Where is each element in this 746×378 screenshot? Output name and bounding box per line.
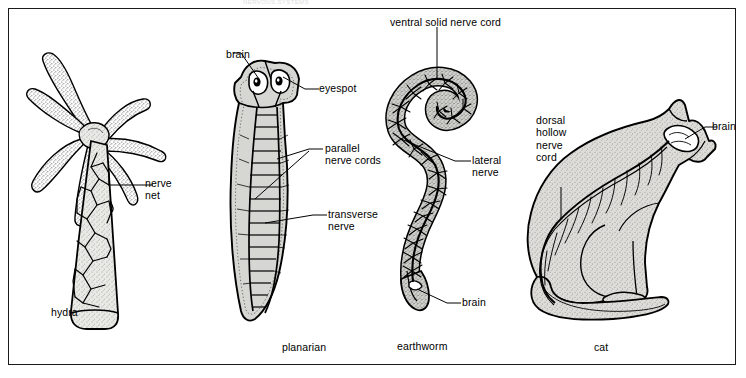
callout-cat-brain: brain [712, 120, 736, 132]
panel-hydra: nerve net hydra [21, 41, 206, 321]
organism-caption-planarian: planarian [282, 341, 326, 353]
callout-ventral-solid-nerve-cord: ventral solid nerve cord [390, 16, 501, 28]
earthworm-anterior [401, 271, 429, 310]
callout-lateral-nerve: lateral nerve [472, 154, 501, 179]
running-header: NERVOUS SYSTEMS [243, 0, 423, 6]
hydra-illustration [21, 41, 206, 321]
plate-frame: nerve net hydra [8, 8, 736, 365]
organism-caption-cat: cat [594, 341, 608, 353]
callout-planarian-eyespot: eyespot [319, 82, 356, 94]
callout-nerve-net: nerve net [145, 177, 172, 202]
nervous-system-figure: NERVOUS SYSTEMS [0, 0, 746, 378]
organism-caption-hydra: hydra [51, 306, 78, 318]
panel-cat: dorsal hollow nerve cord brain cat [509, 91, 734, 336]
organism-caption-earthworm: earthworm [397, 340, 448, 352]
callout-dorsal-hollow-nerve-cord: dorsal hollow nerve cord [536, 114, 566, 164]
callout-planarian-brain: brain [226, 48, 250, 60]
callout-earthworm-brain: brain [462, 296, 486, 308]
